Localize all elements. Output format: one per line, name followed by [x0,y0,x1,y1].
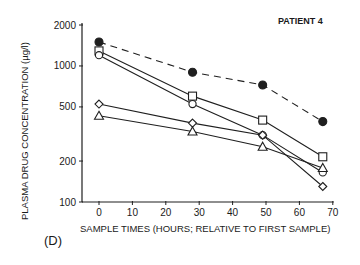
panel-label: (D) [44,233,62,248]
x-tick-label: 10 [127,207,139,218]
filled-circle-line [99,42,323,122]
y-tick-label: 2000 [54,20,77,31]
filled-circle-marker [95,38,103,46]
diamond-line [99,104,323,186]
x-tick-label: 70 [327,207,339,218]
y-axis-label: PLASMA DRUG CONCENTRATION (µg/l) [19,42,30,220]
square-line [99,51,323,157]
y-tick-label: 1000 [54,60,77,71]
open-circle-marker [95,52,102,59]
square-marker [259,116,267,124]
x-tick-label: 40 [227,207,239,218]
square-marker [189,92,197,100]
data-series [95,38,328,191]
filled-circle-marker [259,81,267,89]
open-circle-line [99,55,323,172]
x-tick-label: 30 [194,207,206,218]
line-chart: 10020050010002000010203040506070 PATIENT… [0,0,360,265]
y-tick-label: 500 [59,101,76,112]
filled-circle-marker [319,118,327,126]
triangle-line [99,116,323,168]
open-circle-marker [189,100,196,107]
x-tick-label: 60 [294,207,306,218]
x-tick-label: 0 [96,207,102,218]
y-tick-label: 100 [59,197,76,208]
square-marker [319,153,327,161]
triangle-marker [318,163,327,171]
x-tick-label: 50 [260,207,272,218]
y-tick-label: 200 [59,156,76,167]
x-axis-label: SAMPLE TIMES (HOURS; RELATIVE TO FIRST S… [80,223,330,234]
diamond-marker [95,100,103,108]
triangle-marker [95,111,104,119]
x-tick-label: 20 [160,207,172,218]
chart-title: PATIENT 4 [278,16,323,26]
filled-circle-marker [189,68,197,76]
